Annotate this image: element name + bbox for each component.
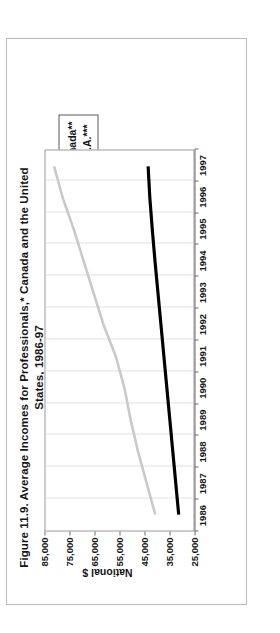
y-axis-tick bbox=[144, 531, 145, 535]
page-title: Figure 11.9. Average Incomes for Profess… bbox=[16, 157, 46, 577]
y-axis-tick bbox=[69, 531, 70, 535]
y-axis-label: 35,000 bbox=[163, 537, 174, 599]
series-layer bbox=[45, 150, 193, 530]
y-axis-tick bbox=[169, 531, 170, 535]
y-axis-title: National $ bbox=[52, 566, 162, 578]
x-axis-label: 1997 bbox=[196, 145, 207, 185]
y-axis-tick bbox=[44, 531, 45, 535]
y-axis-label: 85,000 bbox=[38, 537, 49, 599]
y-axis-tick bbox=[194, 531, 195, 535]
y-axis-tick bbox=[94, 531, 95, 535]
chart-title-line-1: Figure 11.9. Average Incomes for Profess… bbox=[16, 157, 31, 577]
plot-region bbox=[44, 149, 194, 531]
y-axis-label: 25,000 bbox=[188, 537, 199, 599]
rotated-figure-wrapper: Figure 11.9. Average Incomes for Profess… bbox=[6, 38, 247, 605]
chart-canvas: Figure 11.9. Average Incomes for Profess… bbox=[6, 38, 247, 605]
y-axis-tick bbox=[119, 531, 120, 535]
series-line bbox=[54, 166, 155, 514]
plot-area bbox=[44, 149, 194, 531]
series-line bbox=[148, 166, 179, 514]
